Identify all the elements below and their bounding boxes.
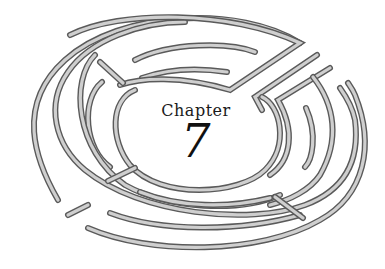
chapter-number: 7	[170, 116, 222, 166]
